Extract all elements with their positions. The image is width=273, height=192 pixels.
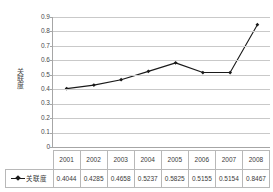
table-cell-value: 0.5825 — [161, 169, 188, 188]
table-cell-year: 2003 — [107, 151, 134, 170]
y-axis-tick-label: 0.4 — [24, 86, 50, 93]
data-point-marker[interactable] — [119, 78, 123, 82]
gridline — [53, 133, 270, 134]
y-axis-tick-labels: 0.90.80.70.60.50.40.30.20.10 — [24, 0, 50, 150]
y-axis-tickmark — [50, 46, 53, 47]
gridline — [53, 75, 270, 76]
y-axis-tickmark — [50, 31, 53, 32]
table-cell-year: 2002 — [80, 151, 107, 170]
y-axis-tickmark — [50, 17, 53, 18]
data-point-marker[interactable] — [174, 61, 178, 65]
table-cell-year: 2007 — [215, 151, 242, 170]
table-cell-value: 0.4044 — [53, 169, 80, 188]
y-axis-tick-label: 0.7 — [24, 43, 50, 50]
line-marker-icon — [11, 175, 25, 182]
gridline — [53, 17, 270, 18]
gridline — [53, 31, 270, 32]
table-cell-value: 0.8467 — [242, 169, 269, 188]
y-axis-tickmark — [50, 89, 53, 90]
chart-data-table: 20012002200320042005200620072008 关联度 0.4… — [5, 150, 270, 188]
legend-label: 关联度 — [26, 175, 47, 182]
y-axis-tick-label: 0.3 — [24, 100, 50, 107]
gridline — [53, 118, 270, 119]
y-axis-tick-label: 0.6 — [24, 57, 50, 64]
y-axis-tickmark — [50, 75, 53, 76]
series-line — [67, 25, 258, 89]
plot-region: 关联度 0.90.80.70.60.50.40.30.20.10 — [0, 0, 273, 150]
y-axis-tickmark — [50, 147, 53, 148]
y-axis-title: 关联度 — [10, 56, 24, 100]
table-cell-year: 2001 — [53, 151, 80, 170]
table-cell-year: 2005 — [161, 151, 188, 170]
table-cell-year: 2004 — [134, 151, 161, 170]
gridline — [53, 147, 270, 148]
y-axis-tickmark — [50, 60, 53, 61]
y-axis-tickmark — [50, 104, 53, 105]
legend-entry[interactable]: 关联度 — [6, 169, 54, 188]
y-axis-tick-label: 0.8 — [24, 28, 50, 35]
table-cell-value: 0.4285 — [80, 169, 107, 188]
y-axis-tick-label: 0.1 — [24, 129, 50, 136]
y-axis-tickmark — [50, 133, 53, 134]
gridline — [53, 60, 270, 61]
y-axis-tick-label: 0.2 — [24, 115, 50, 122]
series-line-关联度 — [53, 17, 271, 147]
table-corner-blank — [6, 151, 54, 170]
table-cell-value: 0.5154 — [215, 169, 242, 188]
data-point-marker[interactable] — [146, 69, 150, 73]
table-row-values: 关联度 0.40440.42850.46580.52370.58250.5155… — [6, 169, 270, 188]
table-cell-year: 2006 — [188, 151, 215, 170]
table-cell-value: 0.5155 — [188, 169, 215, 188]
table-cell-value: 0.4658 — [107, 169, 134, 188]
y-axis-tick-label: 0.5 — [24, 72, 50, 79]
table-cell-value: 0.5237 — [134, 169, 161, 188]
plot-area — [52, 17, 270, 147]
table-cell-year: 2008 — [242, 151, 269, 170]
y-axis-tick-label: 0.9 — [24, 14, 50, 21]
chart-container: 关联度 0.90.80.70.60.50.40.30.20.10 2001200… — [0, 0, 273, 192]
gridline — [53, 104, 270, 105]
gridline — [53, 89, 270, 90]
gridline — [53, 46, 270, 47]
table-row-years: 20012002200320042005200620072008 — [6, 151, 270, 170]
data-point-marker[interactable] — [92, 83, 96, 87]
y-axis-tickmark — [50, 118, 53, 119]
